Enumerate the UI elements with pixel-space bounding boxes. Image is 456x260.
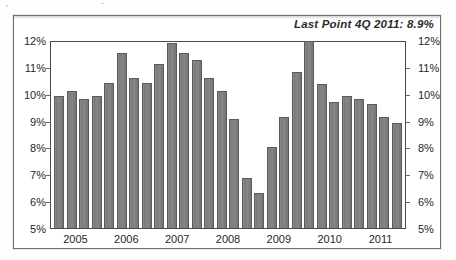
bar [142, 83, 152, 228]
bar [179, 53, 189, 228]
plot-area [50, 41, 406, 229]
y-axis-right: 5%6%7%8%9%10%11%12% [410, 41, 450, 229]
y-tick-label-right: 8% [418, 142, 434, 154]
y-tick-label-right: 9% [418, 116, 434, 128]
x-tick-label: 2008 [216, 233, 240, 245]
y-tick-label-left: 12% [24, 35, 46, 47]
bar [367, 104, 377, 228]
bar [342, 96, 352, 228]
bar [54, 96, 64, 228]
y-axis-left: 5%6%7%8%9%10%11%12% [6, 41, 46, 229]
x-tick-label: 2005 [63, 233, 87, 245]
x-tick-label: 2009 [267, 233, 291, 245]
bar [392, 123, 402, 228]
last-point-annotation: Last Point 4Q 2011: 8.9% [294, 18, 434, 30]
bar [242, 178, 252, 228]
y-tick-label-left: 8% [30, 142, 46, 154]
bar [292, 72, 302, 228]
x-tick-label: 2010 [317, 233, 341, 245]
y-tick-label-right: 6% [418, 196, 434, 208]
bar [192, 60, 202, 228]
y-tick-label-left: 6% [30, 196, 46, 208]
y-tick-label-right: 11% [418, 62, 439, 74]
bar [129, 78, 139, 228]
bar [104, 83, 114, 228]
bar [354, 99, 364, 228]
bar [267, 147, 277, 228]
bar [204, 78, 214, 228]
bar-series [51, 42, 405, 228]
bar [117, 53, 127, 228]
x-tick-label: 2011 [369, 233, 393, 245]
y-tick-label-right: 7% [418, 169, 434, 181]
bar [92, 96, 102, 228]
bar [154, 64, 164, 228]
y-tick-label-left: 5% [30, 223, 46, 235]
y-tick-label-left: 11% [25, 62, 46, 74]
y-tick-label-right: 10% [418, 89, 440, 101]
bar [254, 193, 264, 228]
bar [229, 119, 239, 228]
bar [167, 43, 177, 228]
bar [304, 41, 314, 228]
x-axis: 2005200620072008200920102011 [50, 233, 406, 249]
x-tick-label: 2007 [165, 233, 189, 245]
bar [379, 117, 389, 228]
bar [317, 84, 327, 228]
y-tick-label-right: 12% [418, 35, 440, 47]
y-tick-label-right: 5% [418, 223, 434, 235]
bar [329, 102, 339, 228]
y-tick-label-left: 7% [30, 169, 46, 181]
y-tick-label-left: 10% [24, 89, 46, 101]
bar [67, 91, 77, 228]
y-tick-label-left: 9% [30, 116, 46, 128]
bar [217, 91, 227, 228]
bar [79, 99, 89, 228]
x-tick-label: 2006 [114, 233, 138, 245]
bar [279, 117, 289, 228]
